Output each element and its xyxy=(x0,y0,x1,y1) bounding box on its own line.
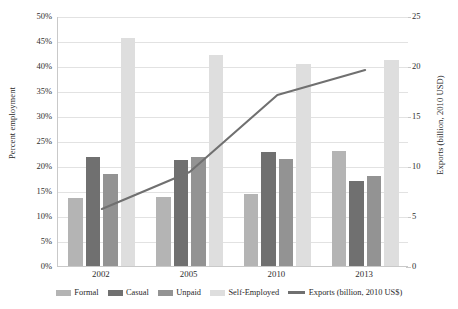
legend-item-exports-billion-2010-us[interactable]: Exports (billion, 2010 US$) xyxy=(288,288,402,297)
y-axis-left-tick-label: 40% xyxy=(18,61,52,71)
y-axis-left-tick-label: 20% xyxy=(18,161,52,171)
y-axis-left-tick-label: 0% xyxy=(18,261,52,271)
exports-line-series xyxy=(58,17,409,267)
y-axis-left-tick-label: 30% xyxy=(18,111,52,121)
legend-label: Self-Employed xyxy=(228,288,279,297)
legend-item-casual[interactable]: Casual xyxy=(108,288,149,297)
legend-label: Casual xyxy=(126,288,149,297)
x-axis-tick-label-2002: 2002 xyxy=(92,269,110,279)
y-axis-right-tick-label: 20 xyxy=(412,61,438,71)
y-axis-right-tick-label: 25 xyxy=(412,11,438,21)
legend-label: Formal xyxy=(74,288,98,297)
y-axis-left-tick-label: 10% xyxy=(18,211,52,221)
legend-bar-swatch-icon xyxy=(210,290,225,296)
chart-legend: FormalCasualUnpaidSelf-EmployedExports (… xyxy=(0,288,458,297)
y-axis-left-tick-label: 50% xyxy=(18,11,52,21)
y-axis-left-tick-label: 35% xyxy=(18,86,52,96)
legend-bar-swatch-icon xyxy=(56,290,71,296)
y-axis-left-tick-label: 45% xyxy=(18,36,52,46)
y-axis-left-tick-label: 25% xyxy=(18,136,52,146)
y-axis-left-title: Percent employment xyxy=(7,63,17,183)
y-axis-right-tick-label: 15 xyxy=(412,111,438,121)
legend-line-swatch-icon xyxy=(288,291,305,294)
plot-area xyxy=(57,17,408,267)
legend-bar-swatch-icon xyxy=(158,290,173,296)
y-axis-right-tick-label: 0 xyxy=(412,261,438,271)
legend-item-unpaid[interactable]: Unpaid xyxy=(158,288,201,297)
legend-item-formal[interactable]: Formal xyxy=(56,288,99,297)
x-axis-tick-label-2010: 2010 xyxy=(268,269,286,279)
y-axis-left-tick-label: 5% xyxy=(18,236,52,246)
chart-figure: Percent employment Exports (billion, 201… xyxy=(0,0,458,309)
x-axis-ticks: 2002200520102013 xyxy=(57,269,408,283)
y-axis-left-tick-label: 15% xyxy=(18,186,52,196)
legend-label: Exports (billion, 2010 US$) xyxy=(309,288,403,297)
x-axis-tick-label-2013: 2013 xyxy=(355,269,373,279)
y-axis-right-tick-label: 10 xyxy=(412,161,438,171)
y-axis-right-tick-label: 5 xyxy=(412,211,438,221)
exports-line-path xyxy=(102,70,365,209)
y-axis-left-ticks: 0%5%10%15%20%25%30%35%40%45%50% xyxy=(18,0,52,309)
y-axis-right-tick-mark xyxy=(406,267,411,268)
legend-label: Unpaid xyxy=(176,288,201,297)
legend-bar-swatch-icon xyxy=(108,290,123,296)
x-axis-tick-label-2005: 2005 xyxy=(180,269,198,279)
legend-item-self-employed[interactable]: Self-Employed xyxy=(210,288,279,297)
y-axis-right-ticks: 0510152025 xyxy=(412,0,438,309)
